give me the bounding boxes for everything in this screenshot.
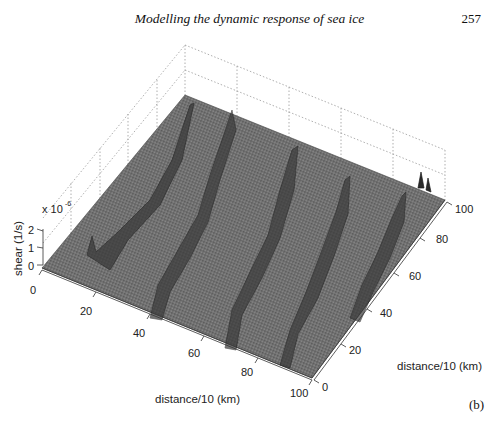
z-tick-0: 0	[28, 260, 34, 272]
x-tick-80: 80	[241, 366, 253, 378]
x-tick-60: 60	[188, 347, 200, 359]
z-axis	[37, 229, 43, 265]
z-scale-base: x 10	[42, 203, 63, 215]
y-tick-0: 0	[322, 381, 328, 393]
y-tick-40: 40	[380, 307, 392, 319]
y-tick-20: 20	[349, 344, 361, 356]
surface-plot: 2 1 0 shear (1/s) x 10 -6 0 20 40 60 80 …	[0, 0, 499, 429]
y-tick-80: 80	[436, 233, 448, 245]
z-axis-label: shear (1/s)	[12, 221, 24, 276]
x-axis-label: distance/10 (km)	[155, 393, 240, 405]
z-tick-1: 1	[28, 242, 34, 254]
z-scale-exponent: -6	[65, 200, 71, 207]
y-tick-100: 100	[455, 203, 473, 215]
panel-label: (b)	[469, 397, 484, 413]
y-axis-label: distance/10 (km)	[397, 360, 482, 372]
z-tick-2: 2	[28, 224, 34, 236]
x-tick-20: 20	[80, 305, 92, 317]
x-tick-40: 40	[133, 327, 145, 339]
x-tick-100: 100	[290, 387, 308, 399]
y-tick-60: 60	[409, 270, 421, 282]
x-tick-0: 0	[30, 284, 36, 296]
